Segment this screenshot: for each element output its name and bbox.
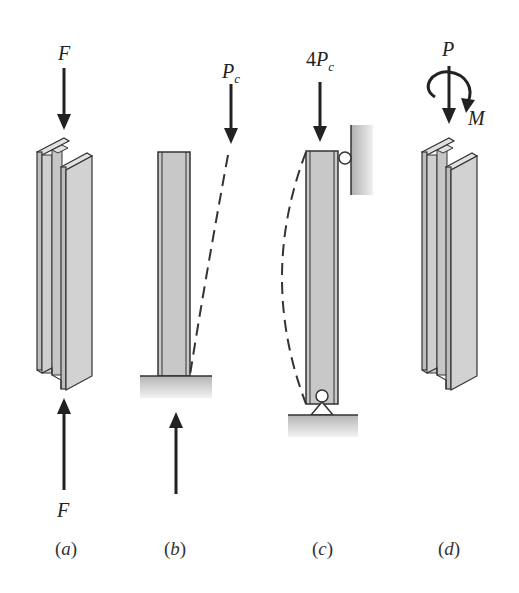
column-buckling-figure: F F Pc: [0, 0, 519, 593]
load-label-4pc: 4Pc: [306, 48, 334, 74]
panel-c: 4Pc: [282, 48, 373, 437]
panel-d: P M: [422, 38, 486, 390]
i-beam-column: [37, 138, 92, 390]
caption-a: (a): [55, 538, 77, 560]
buckled-shape-dashed: [282, 152, 306, 404]
ground-support: [140, 376, 212, 398]
wall-support: [351, 125, 373, 195]
arrow-up-icon: [57, 398, 71, 490]
pinned-column: [306, 151, 338, 404]
i-beam-column: [422, 138, 477, 390]
moment-label-m: M: [467, 107, 486, 129]
load-label-pc: Pc: [221, 60, 240, 86]
load-label-f-top: F: [57, 42, 71, 64]
fixed-column: [158, 152, 190, 376]
roller-icon: [339, 152, 351, 164]
panel-b: Pc: [140, 60, 240, 494]
caption-c: (c): [312, 538, 333, 560]
caption-b: (b): [164, 538, 186, 560]
arrow-down-icon: [313, 82, 327, 142]
caption-d: (d): [438, 538, 460, 560]
arrow-down-icon: [57, 68, 71, 130]
arrow-up-icon: [169, 412, 183, 494]
panel-a: F F: [37, 42, 92, 521]
load-label-p: P: [441, 38, 454, 60]
buckled-shape-dashed: [190, 155, 228, 375]
load-label-f-bottom: F: [56, 499, 70, 521]
pin-support: [288, 390, 358, 437]
arrow-down-icon: [224, 84, 238, 144]
arrow-down-icon: [442, 66, 456, 124]
